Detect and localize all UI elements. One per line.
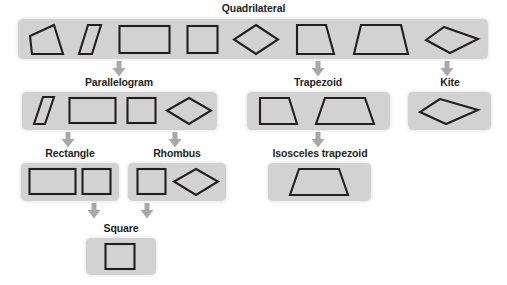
shape-kite	[418, 96, 480, 126]
label-parallelogram: Parallelogram	[39, 76, 199, 88]
shape-thin-parallelogram	[78, 24, 104, 56]
shape-isosceles-trapezoid	[352, 24, 410, 56]
arrow-rectangle-to-square	[87, 203, 101, 219]
arrow-parallelogram-to-rhombus	[168, 132, 182, 148]
shape-rectangle	[28, 167, 78, 197]
label-trapezoid: Trapezoid	[263, 76, 373, 88]
shape-kite	[424, 24, 480, 56]
shape-isosceles-trapezoid	[288, 167, 350, 197]
shape-trapezoid	[295, 24, 337, 56]
label-quadrilateral: Quadrilateral	[0, 2, 507, 14]
shape-rectangle	[118, 24, 172, 56]
shape-trapezoid	[258, 96, 300, 126]
shape-isosceles-trapezoid	[314, 96, 376, 126]
label-square: Square	[86, 222, 156, 234]
shape-thin-parallelogram	[32, 96, 58, 126]
shape-square	[104, 242, 138, 272]
shape-rhombus	[232, 24, 280, 56]
label-isosceles-trapezoid: Isosceles trapezoid	[250, 147, 390, 159]
shape-rhombus	[172, 167, 220, 197]
label-rhombus: Rhombus	[128, 147, 226, 159]
arrow-rhombus-to-square	[140, 203, 154, 219]
arrow-quadrilateral-to-kite	[440, 61, 454, 77]
shape-square	[136, 167, 168, 197]
diagram-canvas: Quadrilateral Parallelogram Trapezoid Ki…	[0, 0, 507, 285]
arrow-quadrilateral-to-trapezoid	[311, 61, 325, 77]
shape-rhombus	[165, 96, 213, 126]
label-rectangle: Rectangle	[21, 147, 119, 159]
arrow-trapezoid-to-isosceles-trapezoid	[311, 132, 325, 148]
label-kite: Kite	[408, 76, 492, 88]
shape-irregular-quadrilateral	[28, 24, 68, 56]
arrow-parallelogram-to-rectangle	[61, 132, 75, 148]
shape-square	[126, 96, 158, 126]
shape-square	[81, 167, 113, 197]
shape-square	[186, 24, 220, 56]
shape-rectangle	[68, 96, 118, 126]
arrow-quadrilateral-to-parallelogram	[112, 61, 126, 77]
